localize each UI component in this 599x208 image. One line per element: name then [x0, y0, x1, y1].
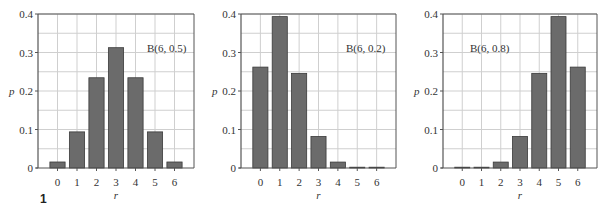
x-tick-label: 6	[575, 176, 581, 188]
bar-r-6	[570, 67, 585, 168]
bar-r-2	[493, 162, 508, 168]
bar-r-4	[532, 73, 547, 168]
bar-r-3	[512, 136, 527, 168]
x-axis-label: r	[518, 189, 523, 201]
x-tick-label: 3	[517, 176, 523, 188]
y-tick-label: 0.3	[424, 47, 438, 59]
y-tick-label: 0.4	[424, 8, 438, 20]
y-axis-label: p	[413, 85, 420, 97]
chart-svg: 012345600.10.20.30.4prB(6, 0.8)	[0, 0, 599, 208]
figure-number: 1	[40, 192, 47, 206]
x-tick-label: 5	[556, 176, 562, 188]
y-tick-label: 0.2	[424, 85, 438, 97]
y-tick-label: 0	[433, 162, 439, 174]
x-tick-label: 1	[479, 176, 485, 188]
x-tick-label: 4	[537, 176, 543, 188]
distribution-label: B(6, 0.8)	[470, 42, 510, 55]
x-tick-label: 0	[460, 176, 466, 188]
x-tick-label: 2	[498, 176, 504, 188]
chart-binomial-0-8: 012345600.10.20.30.4prB(6, 0.8)	[0, 0, 599, 208]
y-tick-label: 0.1	[424, 124, 438, 136]
bar-r-5	[551, 17, 566, 168]
